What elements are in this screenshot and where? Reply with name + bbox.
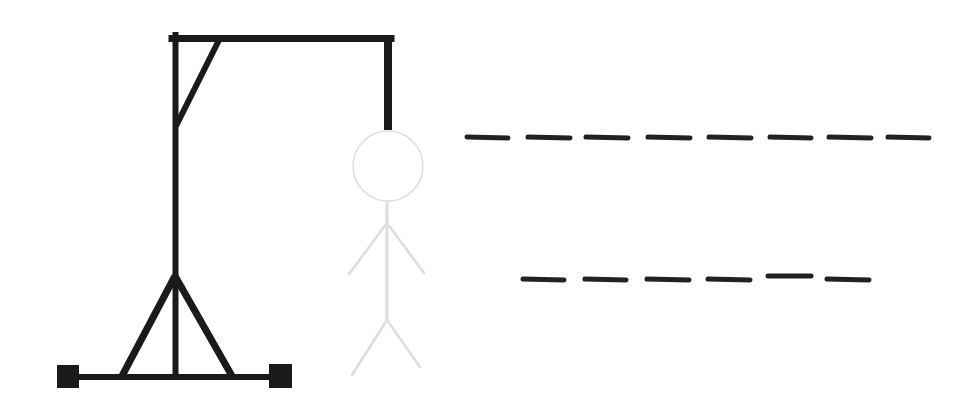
letter-blank	[586, 137, 628, 138]
gallows-right-leg	[175, 276, 232, 376]
gallows-brace	[176, 40, 219, 126]
hangman-figure	[349, 131, 424, 375]
word-row-2	[523, 276, 869, 280]
letter-blank	[829, 137, 871, 138]
figure-left-arm	[349, 223, 387, 274]
letter-blank	[648, 137, 690, 138]
word-row-1	[467, 137, 929, 138]
gallows-left-foot	[57, 365, 79, 388]
letter-blank	[467, 137, 508, 138]
figure-right-leg	[387, 320, 420, 367]
letter-blank	[585, 279, 626, 280]
letter-blank	[647, 279, 689, 280]
figure-head	[353, 131, 423, 201]
letter-blank	[827, 279, 869, 280]
letter-blank	[708, 279, 750, 280]
figure-left-leg	[352, 320, 387, 375]
gallows-left-leg	[122, 276, 175, 376]
letter-blank	[523, 279, 564, 280]
hangman-board	[0, 0, 975, 408]
gallows	[57, 35, 391, 388]
letter-blank	[528, 137, 570, 138]
figure-right-arm	[387, 223, 424, 273]
gallows-right-foot	[269, 364, 292, 388]
letter-blank	[709, 137, 751, 138]
letter-blank	[888, 137, 929, 138]
letter-blank	[770, 137, 811, 138]
